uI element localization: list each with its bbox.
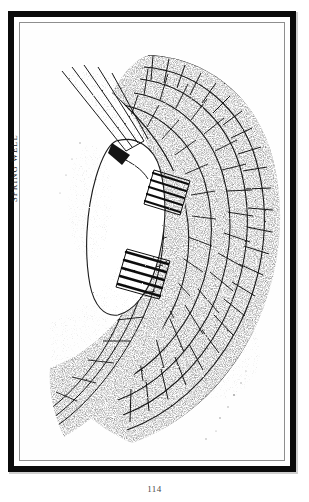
page-number: 114 [0,484,309,494]
spring-well-drawing [20,23,284,460]
illustration-plate [20,23,284,460]
plate-caption: SPRING WELL [10,62,19,202]
scanned-book-page: SPRING WELL 114 [0,0,309,502]
